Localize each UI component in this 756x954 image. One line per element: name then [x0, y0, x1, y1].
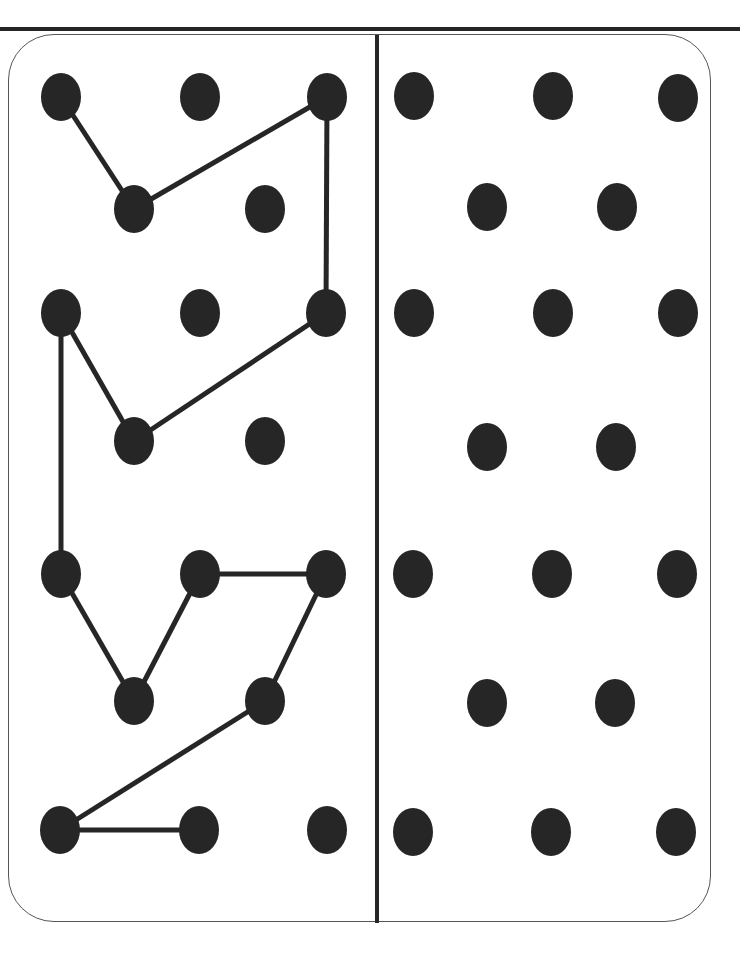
- dot-f1: [114, 677, 154, 725]
- connecting-line: [134, 313, 326, 441]
- dot-a1: [41, 73, 81, 121]
- dot-e2[interactable]: [532, 550, 572, 598]
- dot-e1: [41, 550, 81, 598]
- dot-e2: [180, 550, 220, 598]
- dot-f2[interactable]: [595, 679, 635, 727]
- dot-b2[interactable]: [597, 183, 637, 231]
- dot-g1: [40, 806, 80, 854]
- connecting-line: [326, 97, 327, 313]
- dot-e3[interactable]: [657, 550, 697, 598]
- dot-f2: [245, 677, 285, 725]
- dot-a2: [180, 73, 220, 121]
- dot-c3[interactable]: [658, 289, 698, 337]
- dot-c1: [41, 289, 81, 337]
- dot-d2: [245, 417, 285, 465]
- dot-f1[interactable]: [467, 679, 507, 727]
- dot-grid-board: [0, 0, 756, 954]
- dot-a2[interactable]: [533, 72, 573, 120]
- dot-d1: [114, 417, 154, 465]
- copy-dots[interactable]: [393, 72, 698, 856]
- dot-b2: [245, 185, 285, 233]
- dot-c3: [306, 289, 346, 337]
- dot-e1[interactable]: [393, 550, 433, 598]
- dot-g3[interactable]: [656, 808, 696, 856]
- dot-g2[interactable]: [531, 808, 571, 856]
- dot-b1[interactable]: [467, 183, 507, 231]
- dot-c1[interactable]: [394, 289, 434, 337]
- dot-c2: [180, 289, 220, 337]
- dot-g2: [179, 806, 219, 854]
- connecting-line: [134, 97, 327, 209]
- dot-e3: [306, 550, 346, 598]
- dot-b1: [114, 185, 154, 233]
- dot-a3[interactable]: [658, 74, 698, 122]
- dot-d2[interactable]: [596, 423, 636, 471]
- connecting-line: [60, 701, 265, 830]
- dot-g3: [307, 806, 347, 854]
- dot-d1[interactable]: [467, 423, 507, 471]
- dot-c2[interactable]: [533, 289, 573, 337]
- dot-g1[interactable]: [393, 808, 433, 856]
- pattern-lines: [60, 97, 327, 830]
- dot-a1[interactable]: [394, 72, 434, 120]
- dot-a3: [307, 73, 347, 121]
- pattern-dots: [40, 73, 347, 854]
